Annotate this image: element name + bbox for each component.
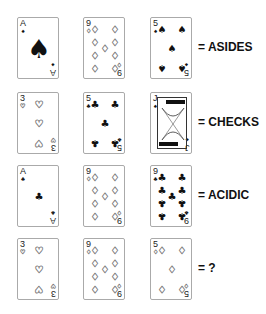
diamonds-icon: ♢ — [91, 271, 100, 281]
row-answer: = ACIDIC — [198, 188, 249, 202]
clubs-icon: ♣ — [178, 198, 187, 208]
hearts-icon: ♡ — [51, 283, 56, 289]
playing-card-3-of-hearts: 3♡3♡♡♡♡ — [17, 238, 59, 300]
diamonds-icon: ♢ — [158, 284, 167, 294]
diamonds-icon: ♢ — [158, 246, 167, 256]
row-answer: = CHECKS — [198, 115, 259, 129]
clubs-icon: ♣ — [91, 100, 100, 110]
corner-index: A♠ — [50, 62, 56, 77]
diamonds-icon: ♢ — [91, 50, 100, 60]
diamonds-icon: ♢ — [91, 284, 100, 294]
diamonds-icon: ♢ — [91, 186, 100, 196]
rank-label: 3 — [20, 93, 25, 103]
hearts-icon: ♡ — [20, 249, 25, 255]
diamonds-icon: ♢ — [111, 284, 120, 294]
hearts-icon: ♡ — [20, 103, 25, 109]
hearts-icon: ♡ — [35, 119, 44, 129]
hearts-icon: ♡ — [35, 284, 44, 294]
diamonds-icon: ♢ — [111, 25, 120, 35]
spades-icon: ♠ — [158, 25, 167, 35]
spades-icon: ♠ — [168, 44, 177, 54]
hearts-icon: ♡ — [35, 138, 44, 148]
diamonds-icon: ♢ — [91, 198, 100, 208]
diamonds-icon: ♢ — [101, 192, 110, 202]
rank-label: A — [20, 18, 26, 28]
rank-label: 3 — [51, 289, 56, 299]
corner-index: 3♡ — [20, 240, 25, 255]
corner-index: 3♡ — [51, 283, 56, 298]
playing-card-9-of-diamonds: 9♢9♢♢♢♢♢♢♢♢♢♢ — [83, 238, 125, 300]
clubs-icon: ♣ — [178, 186, 187, 196]
clubs-icon: ♣ — [101, 119, 110, 129]
diamonds-icon: ♢ — [111, 38, 120, 48]
diamonds-icon: ♢ — [111, 271, 120, 281]
corner-index: A♣ — [50, 210, 56, 225]
diamonds-icon: ♢ — [91, 63, 100, 73]
row-answer: = ? — [198, 261, 216, 275]
rank-label: A — [50, 216, 56, 226]
diamonds-icon: ♢ — [111, 246, 120, 256]
rank-label: A — [50, 68, 56, 78]
diamonds-icon: ♢ — [111, 259, 120, 269]
corner-index: A♠ — [20, 19, 26, 34]
diamonds-icon: ♢ — [111, 173, 120, 183]
rank-label: 3 — [51, 143, 56, 153]
row-answer: = ASIDES — [198, 40, 253, 54]
diamonds-icon: ♢ — [101, 44, 110, 54]
clubs-icon: ♣ — [178, 211, 187, 221]
clubs-icon: ♣ — [158, 186, 167, 196]
playing-card-3-of-hearts: 3♡3♡♡♡♡ — [17, 92, 59, 154]
diamonds-icon: ♢ — [111, 50, 120, 60]
diamonds-icon: ♢ — [168, 265, 177, 275]
playing-card-5-of-clubs: 5♣5♣♣♣♣♣♣ — [83, 92, 125, 154]
corner-index: A♣ — [20, 167, 26, 182]
diamonds-icon: ♢ — [101, 265, 110, 275]
clubs-icon: ♣ — [158, 198, 167, 208]
clubs-icon: ♣ — [20, 176, 26, 182]
spades-icon: ♠ — [178, 25, 187, 35]
playing-card-A-of-clubs: A♣A♣♣ — [17, 165, 59, 227]
diamonds-icon: ♢ — [91, 38, 100, 48]
diamonds-icon: ♢ — [91, 173, 100, 183]
clubs-icon: ♣ — [158, 211, 167, 221]
hearts-icon: ♡ — [35, 246, 44, 256]
clubs-icon: ♣ — [168, 192, 177, 202]
clubs-icon: ♣ — [178, 173, 187, 183]
hearts-icon: ♡ — [35, 265, 44, 275]
playing-card-5-of-spades: 5♠5♠♠♠♠♠♠ — [150, 17, 192, 79]
hearts-icon: ♡ — [51, 137, 56, 143]
spades-icon: ♠ — [27, 36, 50, 62]
corner-index: 3♡ — [20, 94, 25, 109]
diamonds-icon: ♢ — [91, 259, 100, 269]
rank-label: A — [20, 166, 26, 176]
playing-card-A-of-spades: A♠A♠♠ — [17, 17, 59, 79]
diamonds-icon: ♢ — [111, 186, 120, 196]
diamonds-icon: ♢ — [178, 284, 187, 294]
diamonds-icon: ♢ — [91, 25, 100, 35]
playing-card-5-of-diamonds: 5♢5♢♢♢♢♢♢ — [150, 238, 192, 300]
clubs-icon: ♣ — [91, 138, 100, 148]
playing-card-9-of-diamonds: 9♢9♢♢♢♢♢♢♢♢♢♢ — [83, 165, 125, 227]
spades-icon: ♠ — [20, 28, 26, 34]
diamonds-icon: ♢ — [111, 63, 120, 73]
diamonds-icon: ♢ — [91, 246, 100, 256]
playing-card-9-of-clubs: 9♣9♣♣♣♣♣♣♣♣♣♣ — [150, 165, 192, 227]
jack-face-art — [157, 97, 187, 149]
spades-icon: ♠ — [158, 63, 167, 73]
corner-index: 3♡ — [51, 137, 56, 152]
clubs-icon: ♣ — [35, 192, 44, 202]
clubs-icon: ♣ — [158, 173, 167, 183]
clubs-icon: ♣ — [111, 100, 120, 110]
diamonds-icon: ♢ — [91, 211, 100, 221]
playing-card-J-of-spades: J♠J♠ — [150, 92, 192, 154]
diamonds-icon: ♢ — [111, 211, 120, 221]
spades-icon: ♠ — [178, 63, 187, 73]
rank-label: 3 — [20, 239, 25, 249]
clubs-icon: ♣ — [111, 138, 120, 148]
hearts-icon: ♡ — [35, 100, 44, 110]
playing-card-9-of-diamonds: 9♢9♢♢♢♢♢♢♢♢♢♢ — [83, 17, 125, 79]
diamonds-icon: ♢ — [111, 198, 120, 208]
diamonds-icon: ♢ — [178, 246, 187, 256]
